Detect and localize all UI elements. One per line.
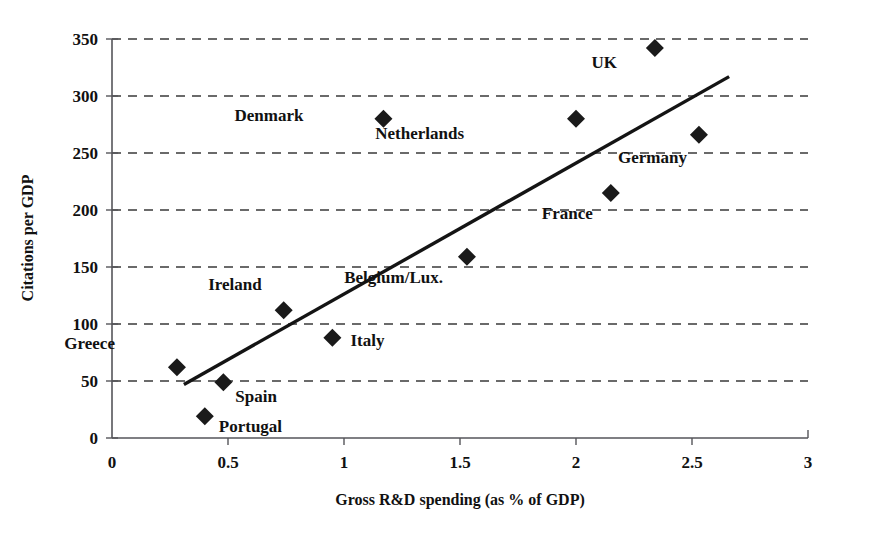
data-point-label: Germany bbox=[618, 148, 687, 167]
data-point: France bbox=[542, 184, 620, 223]
data-point: UK bbox=[591, 39, 664, 72]
x-tick-group: 00.511.522.53 bbox=[108, 430, 813, 472]
data-points-group: GreecePortugalSpainIrelandItalyDenmarkBe… bbox=[64, 39, 708, 436]
x-tick-label: 0.5 bbox=[217, 453, 238, 472]
data-point-label: Portugal bbox=[219, 417, 283, 436]
data-point: Denmark bbox=[234, 106, 392, 128]
y-tick-label: 0 bbox=[90, 429, 99, 448]
data-point-label: Netherlands bbox=[375, 124, 464, 143]
scatter-chart: 050100150200250300350 00.511.522.53 Gree… bbox=[0, 0, 886, 541]
x-tick-label: 3 bbox=[804, 453, 813, 472]
y-tick-label: 250 bbox=[73, 144, 99, 163]
x-tick-label: 2 bbox=[572, 453, 581, 472]
diamond-marker bbox=[196, 407, 214, 425]
diamond-marker bbox=[567, 110, 585, 128]
data-point-label: UK bbox=[591, 53, 617, 72]
diamond-marker bbox=[323, 329, 341, 347]
data-point: Greece bbox=[64, 334, 186, 376]
y-tick-label: 150 bbox=[73, 258, 99, 277]
x-tick-label: 2.5 bbox=[681, 453, 702, 472]
y-axis-title: Citations per GDP bbox=[19, 174, 37, 301]
data-point-label: Spain bbox=[235, 387, 277, 406]
y-tick-group: 050100150200250300350 bbox=[73, 30, 119, 448]
x-tick-label: 0 bbox=[108, 453, 117, 472]
y-tick-label: 350 bbox=[73, 30, 99, 49]
y-tick-label: 300 bbox=[73, 87, 99, 106]
data-point: Portugal bbox=[196, 407, 283, 436]
x-axis-title: Gross R&D spending (as % of GDP) bbox=[335, 491, 585, 509]
data-point-label: Greece bbox=[64, 334, 115, 353]
data-point: Netherlands bbox=[375, 110, 585, 143]
diamond-marker bbox=[602, 184, 620, 202]
diamond-marker bbox=[690, 126, 708, 144]
data-point: Italy bbox=[323, 329, 385, 350]
data-point-label: Denmark bbox=[234, 106, 303, 125]
data-point-label: Belgium/Lux. bbox=[344, 268, 443, 287]
y-tick-label: 200 bbox=[73, 201, 99, 220]
data-point-label: Ireland bbox=[208, 275, 262, 294]
data-point: Spain bbox=[214, 373, 277, 406]
diamond-marker bbox=[214, 373, 232, 391]
data-point-label: Italy bbox=[350, 331, 385, 350]
diamond-marker bbox=[458, 248, 476, 266]
diamond-marker bbox=[168, 358, 186, 376]
axes-group bbox=[112, 39, 808, 438]
x-tick-label: 1.5 bbox=[449, 453, 470, 472]
data-point-label: France bbox=[542, 204, 593, 223]
diamond-marker bbox=[275, 301, 293, 319]
y-tick-label: 100 bbox=[73, 315, 99, 334]
diamond-marker bbox=[646, 39, 664, 57]
y-tick-label: 50 bbox=[81, 372, 98, 391]
data-point: Ireland bbox=[208, 275, 293, 319]
plot-area: 050100150200250300350 00.511.522.53 Gree… bbox=[0, 0, 886, 541]
x-tick-label: 1 bbox=[340, 453, 349, 472]
